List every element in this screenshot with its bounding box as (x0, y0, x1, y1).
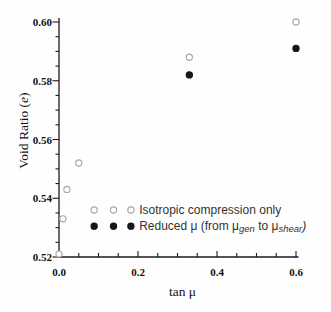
legend-marker-filled-circle (91, 223, 97, 229)
legend-marker-open-circle (128, 207, 134, 213)
legend-marker-open-circle (91, 207, 97, 213)
legend-entry-label: Isotropic compression only (139, 202, 281, 218)
x-tick-label: 0.4 (203, 265, 231, 279)
data-point-open-circle (293, 19, 299, 25)
legend-marker-open-circle (110, 207, 116, 213)
y-tick-label: 0.58 (24, 74, 52, 88)
x-tick-label: 0.2 (124, 265, 152, 279)
legend-entry-label: Reduced μ (from μgen to μshear) (139, 218, 306, 235)
y-tick-label: 0.52 (24, 250, 52, 264)
legend-marker-filled-circle (128, 223, 134, 229)
data-point-open-circle (56, 251, 62, 257)
text-segment: Reduced μ (from μ (139, 219, 239, 233)
x-axis-title: tan μ (140, 283, 225, 300)
scatter-figure: Void Ratio (e) tan μ 0.00.20.40.60.520.5… (0, 0, 331, 312)
data-point-filled-circle (293, 45, 299, 51)
y-tick-label: 0.54 (24, 191, 52, 205)
text-segment: e (16, 97, 31, 103)
data-point-open-circle (186, 54, 192, 60)
text-segment: shear (279, 223, 303, 234)
data-point-open-circle (64, 186, 70, 192)
text-segment: to μ (255, 219, 279, 233)
x-tick-label: 0.0 (45, 265, 73, 279)
y-tick-label: 0.60 (24, 15, 52, 29)
text-segment: gen (239, 223, 255, 234)
data-point-filled-circle (186, 72, 192, 78)
data-point-open-circle (60, 216, 66, 222)
legend-marker-filled-circle (110, 223, 116, 229)
text-segment: Isotropic compression only (139, 203, 281, 217)
x-tick-label: 0.6 (282, 265, 310, 279)
text-segment: ) (16, 92, 31, 97)
text-segment: ) (302, 219, 306, 233)
data-point-open-circle (76, 160, 82, 166)
y-tick-label: 0.56 (24, 133, 52, 147)
